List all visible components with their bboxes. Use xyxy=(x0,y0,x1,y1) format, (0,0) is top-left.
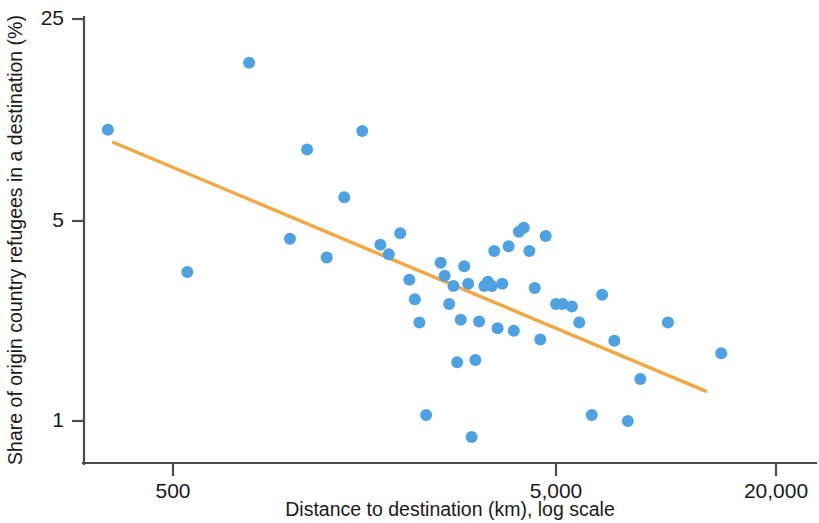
data-point xyxy=(462,278,474,290)
data-point xyxy=(448,280,460,292)
data-point xyxy=(403,274,415,286)
data-point xyxy=(662,317,674,329)
data-point xyxy=(443,298,455,310)
y-axis-title: Share of origin country refugees in a de… xyxy=(4,15,26,465)
data-point xyxy=(518,222,530,234)
y-tick-label-25: 25 xyxy=(41,6,64,29)
data-point xyxy=(466,431,478,443)
data-point xyxy=(321,252,333,264)
y-tick-label-1: 1 xyxy=(52,408,64,431)
data-point xyxy=(338,191,350,203)
data-point xyxy=(458,260,470,272)
data-point xyxy=(394,227,406,239)
data-point xyxy=(586,409,598,421)
chart-canvas: 25 5 1 500 5,000 20,000 Distance to dest… xyxy=(0,0,819,523)
y-tick-label-5: 5 xyxy=(52,208,64,231)
data-point xyxy=(622,415,634,427)
data-point xyxy=(534,334,546,346)
data-point xyxy=(356,125,368,137)
data-point xyxy=(492,322,504,334)
x-tick-label-500: 500 xyxy=(155,479,190,502)
data-point xyxy=(523,245,535,257)
data-point xyxy=(496,278,508,290)
data-point xyxy=(243,57,255,69)
data-point xyxy=(181,266,193,278)
data-point xyxy=(529,282,541,294)
data-point xyxy=(383,248,395,260)
scatter-plot-figure: 25 5 1 500 5,000 20,000 Distance to dest… xyxy=(0,0,819,523)
chart-background xyxy=(0,0,819,523)
data-point xyxy=(715,347,727,359)
data-point xyxy=(374,239,386,251)
data-point xyxy=(420,409,432,421)
data-point xyxy=(455,314,467,326)
data-point xyxy=(469,354,481,366)
data-point xyxy=(284,233,296,245)
data-point xyxy=(473,315,485,327)
data-point xyxy=(486,280,498,292)
data-point xyxy=(439,270,451,282)
data-point xyxy=(413,317,425,329)
data-point xyxy=(301,143,313,155)
data-point xyxy=(573,317,585,329)
x-tick-label-20000: 20,000 xyxy=(744,479,808,502)
data-point xyxy=(503,240,515,252)
data-point xyxy=(596,289,608,301)
data-point xyxy=(540,230,552,242)
data-point xyxy=(435,257,447,269)
data-point xyxy=(566,301,578,313)
data-point xyxy=(451,356,463,368)
data-point xyxy=(409,293,421,305)
x-axis-title: Distance to destination (km), log scale xyxy=(285,498,614,520)
data-point xyxy=(608,335,620,347)
data-point xyxy=(508,325,520,337)
data-point xyxy=(488,245,500,257)
data-point xyxy=(102,124,114,136)
data-point xyxy=(634,373,646,385)
